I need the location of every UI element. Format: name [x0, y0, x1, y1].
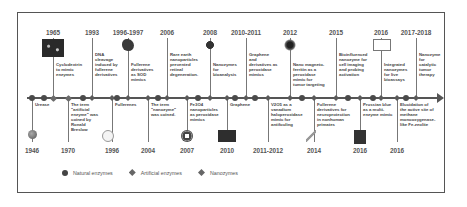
event-year: 2016 — [353, 147, 367, 154]
primate-figure-icon — [306, 130, 316, 142]
event-description: Fullerene derivatives as SOD mimics — [131, 62, 153, 82]
timeline-tick — [370, 95, 376, 101]
cyclodextrin-micrograph-icon — [42, 39, 64, 57]
event-description: Fullerene derivatives for neuroprotectio… — [317, 102, 350, 127]
event-year: 2004 — [141, 147, 155, 154]
event-description: Urease — [35, 102, 49, 107]
event-stem — [246, 38, 247, 96]
event-year: 2017-2018 — [401, 29, 432, 36]
event-stem — [68, 99, 69, 142]
legend-item-natural: Natural enzymes — [62, 170, 113, 176]
integrated-nanozyme-panel-icon — [373, 39, 391, 51]
event-description: V2O5 as a vanadium haloperoxidase mimic … — [271, 102, 303, 127]
event-description: Fe3O4 nanoparticles as peroxidase mimics — [190, 102, 219, 122]
timeline-tick — [299, 95, 305, 101]
event-year: 2007 — [180, 147, 194, 154]
event-description: Graphene and derivatives as peroxidase m… — [249, 52, 277, 77]
legend: Natural enzymes Artificial enzymes Nanoz… — [62, 169, 238, 176]
event-description: Integrated nanozymes for live bioassays — [384, 62, 407, 82]
diamond-marker-icon — [198, 169, 205, 176]
graphene-sheet-icon — [218, 130, 236, 142]
event-stem — [416, 38, 417, 96]
event-description: Elucidation of the active site of methan… — [400, 102, 435, 127]
magnetoferritin-particle-icon — [284, 39, 296, 51]
event-year: 2012 — [283, 29, 297, 36]
event-description: Bioinfluenced nanozyme for cell imaging … — [339, 52, 367, 77]
timeline-tick — [345, 95, 351, 101]
timeline-tick — [252, 95, 258, 101]
event-description: The term "artificial enzyme" was coined … — [71, 102, 98, 132]
event-stem — [268, 99, 269, 142]
event-year: 2008 — [203, 29, 217, 36]
nanoparticle-schematic-icon — [203, 39, 217, 51]
legend-label: Artificial enzymes — [141, 170, 182, 176]
event-year: 2010 — [220, 147, 234, 154]
event-description: Nanozymes for bioanalysis — [213, 62, 237, 77]
legend-label: Nanozymes — [210, 170, 238, 176]
event-description: Nanozyme for catalytic tumor therapy — [419, 52, 441, 77]
timeline-tick — [403, 95, 409, 101]
event-stem — [92, 38, 93, 96]
event-year: 1965 — [46, 29, 60, 36]
timeline-tick — [80, 95, 86, 101]
event-year: 2016 — [374, 29, 388, 36]
event-description: Rare earth nanoparticles prevented retin… — [170, 52, 198, 77]
event-year: 1946 — [25, 147, 39, 154]
legend-item-artificial: Artificial enzymes — [129, 169, 182, 176]
legend-item-nanozymes: Nanozymes — [198, 169, 238, 176]
event-description: Prussian blue as a multi- enzyme mimic — [363, 102, 392, 117]
diamond-marker-icon — [129, 169, 136, 176]
timeline-tick — [195, 95, 201, 101]
timeline-tick — [232, 95, 238, 101]
event-stem — [397, 99, 398, 142]
event-year: 1996-1997 — [113, 29, 144, 36]
event-description: Fullerenes — [115, 102, 137, 107]
event-year: 2015 — [329, 29, 343, 36]
event-year: 2010-2011 — [231, 29, 261, 36]
timeline-tick — [41, 95, 47, 101]
prussian-blue-image-icon — [354, 130, 366, 144]
event-year: 1993 — [85, 29, 99, 36]
event-year: 1996 — [105, 147, 119, 154]
event-stem — [167, 38, 168, 96]
timeline-tick — [155, 95, 161, 101]
event-description: The term "nanozyme" was coined. — [151, 102, 176, 117]
fullerene-cage-icon — [102, 130, 114, 142]
event-year: 1970 — [61, 147, 75, 154]
event-stem — [336, 38, 337, 96]
event-description: DNA cleavage induced by fullerene deriva… — [95, 52, 118, 77]
timeline-arrowhead-icon — [437, 93, 444, 103]
circle-marker-icon — [62, 170, 68, 176]
event-stem — [148, 99, 149, 142]
event-year: 2016 — [390, 147, 404, 154]
event-description: Nano magneto- ferritin as a peroxidase m… — [293, 62, 325, 87]
event-year: 2014 — [307, 147, 321, 154]
timeline-marker — [29, 95, 35, 101]
fe3o4-nanoparticle-icon — [181, 130, 193, 142]
fullerene-derivative-blob-icon — [122, 39, 134, 51]
event-description: Cyclodextrin to mimic enzymes — [56, 62, 82, 77]
event-year: 2006 — [160, 29, 174, 36]
event-description: Graphene — [230, 102, 250, 107]
event-year: 2011-2012 — [253, 147, 283, 154]
timeline-tick — [114, 95, 120, 101]
urease-sphere-icon — [28, 130, 37, 139]
legend-label: Natural enzymes — [73, 170, 113, 176]
